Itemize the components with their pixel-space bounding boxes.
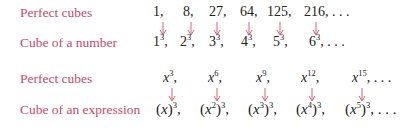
- exponent: 9: [262, 68, 266, 78]
- cube-of-number: 23,: [180, 34, 195, 50]
- inner-exponent: 5: [357, 100, 361, 110]
- exponent: 3: [269, 100, 273, 110]
- exponent: 3: [280, 32, 284, 42]
- inner-exponent: 4: [308, 100, 312, 110]
- exponent: 3: [173, 100, 177, 110]
- exponent: 3: [366, 100, 370, 110]
- exponent: 3: [316, 32, 320, 42]
- separator: ,: [164, 34, 168, 49]
- perfect-cube-expression: x12,: [301, 70, 319, 86]
- perfect-cube-expression: x9,: [256, 70, 270, 86]
- variable: x: [301, 101, 308, 117]
- cube-of-expression: (x4)3,: [296, 101, 325, 118]
- perfect-cube-expression: x15, . . .: [352, 70, 391, 86]
- cube-of-number: 33,: [209, 34, 224, 50]
- label-cube-of-expression: Cube of an expression: [20, 102, 140, 118]
- exponent: 3: [221, 100, 225, 110]
- exponent: 12: [307, 68, 316, 78]
- perfect-cube-number: 216, . . .: [304, 4, 350, 20]
- separator: ,: [225, 101, 229, 117]
- perfect-cube-number: 27,: [209, 4, 227, 20]
- exponent: 3: [216, 32, 220, 42]
- paren-close: ): [168, 101, 173, 117]
- base: 3: [209, 34, 216, 49]
- base: 6: [309, 34, 316, 49]
- exponent: 3: [317, 100, 321, 110]
- cube-of-expression: (x5)3, . . .: [345, 101, 396, 118]
- perfect-cube-number: 125,: [267, 4, 292, 20]
- separator: ,: [191, 34, 195, 49]
- separator: , . . .: [370, 101, 396, 117]
- exponent: 3: [187, 32, 191, 42]
- base: 2: [180, 34, 187, 49]
- base: 4: [241, 34, 248, 49]
- separator: ,: [173, 70, 177, 85]
- label-perfect-cubes-2: Perfect cubes: [20, 71, 92, 87]
- perfect-cube-number: 64,: [240, 4, 258, 20]
- separator: ,: [218, 70, 222, 85]
- perfect-cube-number: 8,: [183, 4, 194, 20]
- exponent: 3: [248, 32, 252, 42]
- variable: x: [253, 101, 260, 117]
- cube-of-expression: (x2)3,: [200, 101, 229, 118]
- cube-of-number: 63, . . .: [309, 34, 345, 50]
- separator: , . . .: [320, 34, 345, 49]
- separator: ,: [284, 34, 288, 49]
- cube-of-expression: (x)3,: [156, 101, 181, 118]
- perfect-cube-expression: x6,: [208, 70, 222, 86]
- separator: ,: [316, 70, 320, 85]
- perfect-cube-expression: x3,: [163, 70, 177, 86]
- perfect-cube-number: 1,: [153, 4, 164, 20]
- variable: x: [205, 101, 212, 117]
- base: 1: [153, 34, 160, 49]
- separator: ,: [321, 101, 325, 117]
- label-cube-of-number: Cube of a number: [20, 35, 117, 51]
- inner-exponent: 3: [260, 100, 264, 110]
- exponent: 3: [160, 32, 164, 42]
- separator: , . . .: [367, 70, 392, 85]
- exponent: 6: [214, 68, 218, 78]
- cube-of-number: 43,: [241, 34, 256, 50]
- separator: ,: [252, 34, 256, 49]
- label-perfect-cubes-1: Perfect cubes: [20, 5, 92, 21]
- cube-of-expression: (x3)3,: [248, 101, 277, 118]
- variable: x: [161, 101, 168, 117]
- cube-of-number: 13,: [153, 34, 168, 50]
- exponent: 3: [169, 68, 173, 78]
- inner-exponent: 2: [212, 100, 216, 110]
- separator: ,: [273, 101, 277, 117]
- exponent: 15: [358, 68, 367, 78]
- cube-of-number: 53,: [273, 34, 288, 50]
- separator: ,: [220, 34, 224, 49]
- separator: ,: [177, 101, 181, 117]
- separator: ,: [266, 70, 270, 85]
- base: 5: [273, 34, 280, 49]
- variable: x: [350, 101, 357, 117]
